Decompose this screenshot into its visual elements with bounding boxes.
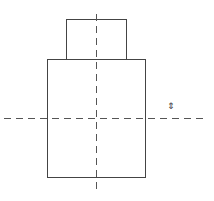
- resize-marker-icon: ⇕: [167, 102, 175, 111]
- drawing-canvas: [0, 0, 214, 201]
